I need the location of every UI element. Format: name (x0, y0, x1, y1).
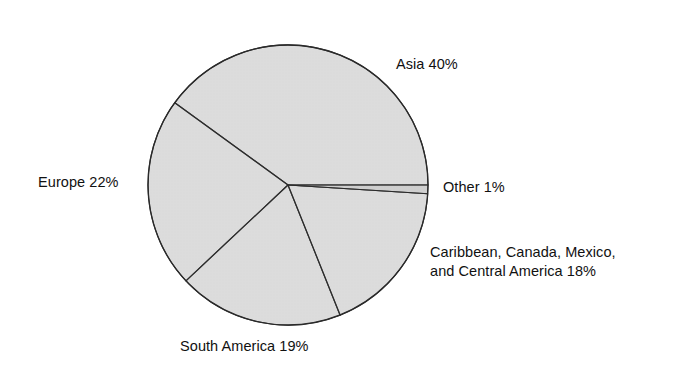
pie-label-caribbean-canada-mexico-central-america: Caribbean, Canada, Mexico,and Central Am… (430, 243, 616, 281)
pie-label-other: Other 1% (443, 178, 505, 197)
pie-label-caribbean-line2: and Central America 18% (430, 263, 596, 279)
pie-label-caribbean-line1: Caribbean, Canada, Mexico, (430, 244, 616, 260)
pie-label-south-america: South America 19% (180, 337, 309, 356)
pie-chart-figure: Asia 40% Other 1% Caribbean, Canada, Mex… (0, 0, 674, 385)
pie-chart-svg (0, 0, 674, 385)
pie-label-europe: Europe 22% (38, 173, 119, 192)
pie-label-asia: Asia 40% (396, 55, 458, 74)
